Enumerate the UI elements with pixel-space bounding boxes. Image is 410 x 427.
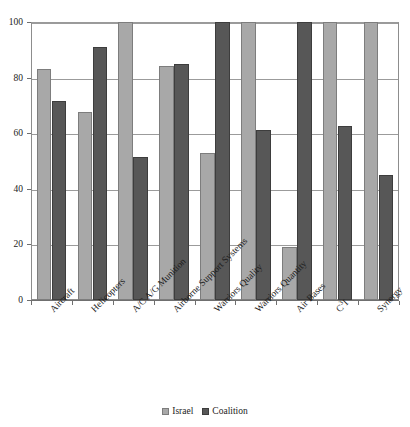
y-tick-label: 40: [14, 184, 24, 194]
x-tick-mark: [276, 301, 277, 305]
legend-swatch-icon: [162, 408, 169, 415]
bar-group: [72, 22, 113, 300]
legend-label: Coalition: [212, 406, 247, 416]
bar-israel-5: [241, 22, 256, 300]
bar-israel-8: [364, 22, 379, 300]
y-tick-label: 100: [9, 17, 23, 27]
bar-israel-2: [118, 22, 133, 300]
x-tick-mark: [113, 301, 114, 305]
bar-coalition-6: [297, 22, 312, 300]
bar-group: [358, 22, 399, 300]
x-axis-labels: AircraftHelicoptersA/C A/G MunitionAirbo…: [0, 300, 410, 390]
x-tick-mark: [358, 301, 359, 305]
bar-israel-7: [323, 22, 338, 300]
x-tick-mark: [195, 301, 196, 305]
legend-item-israel[interactable]: Israel: [162, 406, 193, 416]
bar-group: [235, 22, 276, 300]
legend-label: Israel: [172, 406, 193, 416]
x-tick-mark: [72, 301, 73, 305]
bar-group: [276, 22, 317, 300]
bar-coalition-2: [133, 157, 148, 300]
bar-group: [113, 22, 154, 300]
x-axis-label: C3I: [334, 298, 350, 314]
x-tick-mark: [31, 301, 32, 305]
x-tick-mark: [154, 301, 155, 305]
bar-chart: 020406080100 AircraftHelicoptersA/C A/G …: [0, 0, 410, 427]
y-axis: 020406080100: [0, 0, 31, 310]
bar-group: [31, 22, 72, 300]
bar-group: [154, 22, 195, 300]
x-tick-mark: [235, 301, 236, 305]
legend-item-coalition[interactable]: Coalition: [202, 406, 247, 416]
bar-coalition-1: [93, 47, 108, 300]
bar-israel-0: [37, 69, 52, 300]
bar-coalition-8: [379, 175, 394, 300]
y-tick-label: 60: [14, 128, 24, 138]
bar-israel-1: [78, 112, 93, 300]
bars-layer: [31, 22, 399, 300]
x-tick-mark: [317, 301, 318, 305]
bar-group: [317, 22, 358, 300]
bar-coalition-7: [338, 126, 353, 300]
y-tick-label: 20: [14, 239, 24, 249]
y-tick-label: 80: [14, 73, 24, 83]
legend-swatch-icon: [202, 408, 209, 415]
chart-legend: IsraelCoalition: [0, 406, 410, 416]
x-tick-mark: [399, 301, 400, 305]
bar-coalition-0: [52, 101, 67, 300]
